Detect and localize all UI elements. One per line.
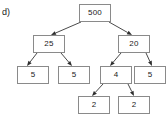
tree-edge-n25-to-l5a [27,53,37,66]
tree-node-l2a: 2 [78,96,110,114]
tree-node-root: 500 [79,4,111,22]
tree-node-label: 2 [92,101,97,109]
tree-edge-n20-to-n4 [110,53,121,66]
tree-node-label: 5 [31,71,36,79]
edge-line [109,22,128,33]
tree-node-l5b: 5 [58,66,90,84]
tree-node-label: 20 [129,40,138,48]
tree-node-n4: 4 [100,66,132,84]
binary-tree-figure: d) 5002520554522 [0,0,168,120]
edge-line [146,53,150,61]
part-label: d) [2,8,10,17]
tree-node-label: 2 [132,101,137,109]
tree-edge-n25-to-l5b [61,53,72,66]
tree-edge-root-to-n20 [109,22,132,35]
edge-line [56,22,81,33]
edge-line [95,84,103,92]
tree-node-label: 500 [88,9,102,17]
tree-node-l5a: 5 [17,66,49,84]
edge-line [113,53,121,62]
tree-node-label: 25 [44,40,53,48]
tree-edge-n4-to-l2a [92,84,103,96]
tree-node-n25: 25 [33,35,65,53]
tree-edge-n20-to-l5c [146,53,152,66]
edge-line [30,53,37,62]
edge-line [61,53,69,62]
tree-edge-n4-to-l2b [128,84,134,96]
tree-node-label: 4 [114,71,119,79]
tree-node-l5c: 5 [134,66,166,84]
tree-node-label: 5 [72,71,77,79]
edge-line [128,84,132,92]
tree-node-l2b: 2 [118,96,150,114]
tree-node-n20: 20 [118,35,150,53]
tree-node-label: 5 [148,71,153,79]
tree-edge-root-to-n25 [51,22,81,35]
